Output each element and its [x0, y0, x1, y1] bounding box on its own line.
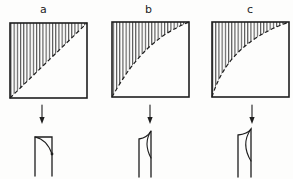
panel-a-profile	[35, 137, 53, 176]
figure-canvas: a b	[0, 0, 293, 179]
panel-c-hatched-region	[212, 22, 289, 97]
panel-a: a	[10, 3, 87, 176]
panel-c-profile	[238, 129, 251, 177]
panel-b: b	[112, 3, 189, 177]
panel-c-down-arrow-icon	[249, 105, 254, 124]
panel-c: c	[212, 3, 289, 177]
panel-b-label: b	[145, 3, 152, 16]
panel-c-label: c	[247, 3, 253, 16]
panel-a-label: a	[40, 3, 47, 16]
panel-b-hatched-region	[112, 22, 189, 97]
panel-a-down-arrow-icon	[39, 105, 44, 124]
panel-b-down-arrow-icon	[147, 105, 152, 124]
panel-b-profile	[139, 131, 151, 177]
